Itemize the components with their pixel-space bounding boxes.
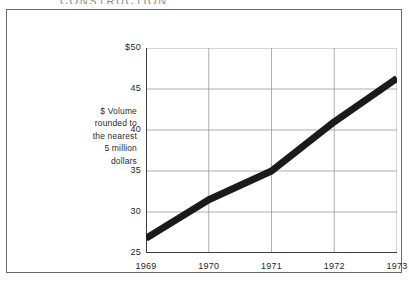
x-tick-label: 1973 <box>386 261 407 271</box>
y-tick-label: 30 <box>107 206 141 216</box>
x-tick-label: 1970 <box>198 261 219 271</box>
y-tick-label: 25 <box>107 247 141 257</box>
figure-frame: $ Volume rounded to the nearest 5 millio… <box>6 9 402 273</box>
x-axis-labels: 1969 1970 1971 1972 1973 <box>146 259 397 275</box>
cropped-page-heading: CONSTRUCTION <box>60 0 260 4</box>
x-tick-label: 1969 <box>135 261 156 271</box>
line-chart-svg <box>146 48 397 253</box>
y-tick-label: 45 <box>107 83 141 93</box>
plot-area <box>146 48 397 253</box>
y-tick-label: 35 <box>107 165 141 175</box>
y-tick-label: $50 <box>107 42 141 52</box>
y-tick-label: 40 <box>107 124 141 134</box>
x-tick-label: 1972 <box>324 261 345 271</box>
x-tick-label: 1971 <box>261 261 282 271</box>
y-axis-labels: $50 45 40 35 30 25 <box>105 48 141 253</box>
